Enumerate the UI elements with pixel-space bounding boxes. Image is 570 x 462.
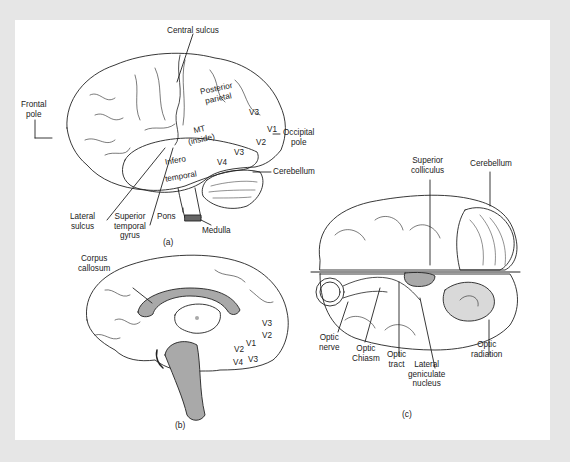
- label-v2: V2: [256, 138, 266, 148]
- label-medulla: Medulla: [202, 226, 231, 236]
- label-central-sulcus: Central sulcus: [167, 26, 219, 36]
- figure-panel: Central sulcus Frontalpole Posteriorpari…: [15, 20, 550, 440]
- label-b-v3-upper: V3: [262, 319, 272, 329]
- label-optic-nerve-2: nerve: [319, 343, 339, 352]
- label-lateral-sulcus: Lateralsulcus: [70, 212, 95, 231]
- label-lgn-1: Lateral: [414, 360, 439, 369]
- label-v4: V4: [217, 158, 227, 168]
- label-corpus-1: Corpus: [81, 254, 107, 263]
- label-optic-rad-2: radiation: [471, 350, 502, 359]
- label-sup-temporal-3: gyrus: [120, 231, 140, 240]
- brain-drawings: [15, 20, 550, 440]
- label-sup-coll-1: Superior: [412, 156, 443, 165]
- label-optic-nerve-1: Optic: [320, 333, 339, 342]
- lateral-brain-drawing: [35, 34, 285, 225]
- label-sup-temporal-1: Superior: [114, 212, 145, 221]
- label-sup-coll-2: colliculus: [411, 166, 444, 175]
- ventral-brain-drawing: [311, 172, 520, 368]
- label-lgn-3: nucleus: [413, 379, 441, 388]
- label-lateral-sulcus-1: Lateral: [70, 212, 95, 221]
- label-superior-colliculus: Superiorcolliculus: [411, 156, 444, 175]
- label-occipital-pole: Occipitalpole: [283, 128, 314, 147]
- label-optic-chiasm-2: Chiasm: [352, 354, 380, 363]
- label-frontal-pole-1: Frontal: [21, 100, 46, 109]
- label-occipital-pole-2: pole: [291, 138, 306, 147]
- label-optic-rad-1: Optic: [477, 340, 496, 349]
- label-v3-upper: V3: [249, 108, 259, 118]
- label-lateral-geniculate-nucleus: Lateralgeniculatenucleus: [408, 360, 445, 389]
- label-optic-tract-1: Optic: [387, 350, 406, 359]
- label-cerebellum-c: Cerebellum: [470, 159, 512, 169]
- label-superior-temporal-gyrus: Superiortemporalgyrus: [114, 212, 146, 241]
- caption-a: (a): [163, 237, 173, 247]
- label-frontal-pole: Frontalpole: [21, 100, 46, 119]
- caption-c: (c): [402, 409, 412, 419]
- label-b-v2-upper: V2: [262, 331, 272, 341]
- caption-b: (b): [175, 420, 185, 430]
- label-b-v3-lower: V3: [248, 355, 258, 365]
- label-b-v4: V4: [233, 358, 243, 368]
- label-sup-temporal-2: temporal: [114, 222, 146, 231]
- label-lgn-2: geniculate: [408, 370, 445, 379]
- label-b-v1: V1: [246, 339, 256, 349]
- label-frontal-pole-2: pole: [26, 110, 41, 119]
- label-lateral-sulcus-2: sulcus: [71, 222, 94, 231]
- label-b-v2-lower: V2: [234, 345, 244, 355]
- label-v3-lower: V3: [234, 148, 244, 158]
- label-optic-tract: Optictract: [387, 350, 406, 369]
- label-cerebellum-a: Cerebellum: [273, 167, 315, 177]
- label-optic-nerve: Opticnerve: [319, 333, 339, 352]
- label-optic-radiation: Opticradiation: [471, 340, 502, 359]
- label-v1: V1: [267, 125, 277, 135]
- label-optic-chiasm-1: Optic: [356, 344, 375, 353]
- label-corpus-2: callosum: [78, 264, 110, 273]
- label-optic-tract-2: tract: [389, 360, 405, 369]
- label-optic-chiasm: OpticChiasm: [352, 344, 380, 363]
- label-pons: Pons: [157, 212, 176, 222]
- label-occipital-pole-1: Occipital: [283, 128, 314, 137]
- medial-brain-drawing: [86, 255, 288, 420]
- label-corpus-callosum: Corpuscallosum: [78, 254, 110, 273]
